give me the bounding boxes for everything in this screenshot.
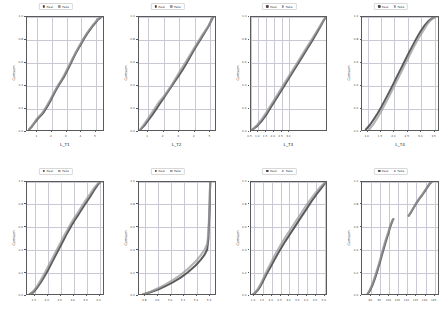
plot-area-1 [26,16,104,131]
curve-layer [251,17,327,130]
y-tick-mark [24,62,25,63]
y-tick-mark [24,16,25,17]
y-tick-mark [24,39,25,40]
y-axis-label: Cumsum [347,61,351,85]
y-tick-mark [24,131,25,132]
legend-swatch-icon [170,170,172,172]
legend-label: Fake [397,169,404,173]
y-tick-label: 0.8 [236,37,247,41]
x-tick-label: 3.0 [66,298,80,302]
x-tick-label: 3.5 [79,298,93,302]
legend-label: Fake [286,169,293,173]
x-tick-mark [273,131,274,132]
y-tick-label: 1.0 [12,14,23,18]
x-tick-mark [370,295,371,296]
x-tick-mark [163,131,164,132]
legend-item-fake[interactable]: Fake [282,169,293,173]
legend-swatch-icon [154,170,156,172]
x-tick-mark [397,295,398,296]
y-tick-label: 1.0 [124,14,135,18]
x-tick-mark [262,295,263,296]
x-tick-mark [170,295,171,296]
x-tick-mark [257,131,258,132]
y-tick-label: 0.8 [124,37,135,41]
x-tick-label: 3.5 [427,134,441,138]
y-axis-label: Cumsum [124,226,128,250]
y-tick-mark [248,203,249,204]
x-tick-label: 5 [88,134,102,138]
legend-panel-2: RealFake [150,3,184,10]
legend-swatch-icon [282,170,284,172]
legend-label: Real [382,169,389,173]
legend-item-fake[interactable]: Fake [393,5,404,9]
y-tick-mark [136,62,137,63]
legend-panel-3: RealFake [262,3,296,10]
y-tick-label: 0.0 [347,293,358,297]
legend-swatch-icon [393,170,395,172]
y-tick-mark [24,203,25,204]
x-tick-mark [209,295,210,296]
y-tick-mark [360,85,361,86]
x-tick-label: 1.5 [27,298,41,302]
legend-item-fake[interactable]: Fake [170,169,181,173]
legend-item-real[interactable]: Real [154,5,165,9]
x-tick-mark [406,295,407,296]
x-tick-mark [324,295,325,296]
legend-item-fake[interactable]: Fake [58,5,69,9]
y-tick-mark [136,203,137,204]
cdf-panel-6: RealFake0.00.20.40.60.81.04.84.95.05.15.… [112,165,224,329]
x-tick-mark [73,295,74,296]
x-tick-mark [415,295,416,296]
legend-item-real[interactable]: Real [266,5,277,9]
x-tick-label: 2.5 [400,134,414,138]
y-tick-label: 0.2 [12,271,23,275]
x-tick-label: 4.0 [92,298,106,302]
legend-label: Real [47,169,54,173]
legend-item-real[interactable]: Real [43,5,54,9]
cdf-panel-4: RealFake0.00.20.40.60.81.01.01.52.02.53.… [335,0,447,165]
legend-item-fake[interactable]: Fake [393,169,404,173]
y-tick-mark [136,108,137,109]
y-tick-mark [360,131,361,132]
x-tick-mark [157,295,158,296]
legend-item-fake[interactable]: Fake [58,169,69,173]
x-tick-label: 3.0 [413,134,427,138]
x-tick-label: 5.0 [317,298,331,302]
legend-item-real[interactable]: Real [154,169,165,173]
plot-area-7 [250,181,328,296]
legend-item-real[interactable]: Real [266,169,277,173]
legend-item-real[interactable]: Real [43,169,54,173]
x-tick-label: 5.2 [189,298,203,302]
x-tick-label: 4.9 [150,298,164,302]
x-tick-label: 2.0 [40,298,54,302]
y-tick-label: 1.0 [12,179,23,183]
x-tick-mark [380,131,381,132]
x-tick-label: 3 [59,134,73,138]
curve-layer [251,182,327,295]
x-tick-mark [367,131,368,132]
legend-item-real[interactable]: Real [378,169,389,173]
x-tick-mark [80,131,81,132]
legend-label: Real [270,5,277,9]
legend-panel-4: RealFake [374,3,408,10]
y-tick-label: 0.2 [124,271,135,275]
y-tick-mark [360,203,361,204]
legend-swatch-icon [154,5,156,7]
x-tick-label: 1 [29,134,43,138]
y-axis-label: Cumsum [236,226,240,250]
y-tick-mark [360,295,361,296]
legend-item-fake[interactable]: Fake [282,5,293,9]
y-tick-label: 0.0 [347,129,358,133]
legend-label: Real [47,5,54,9]
plot-area-4 [361,16,439,131]
legend-item-real[interactable]: Real [378,5,389,9]
x-tick-label: 1 [140,134,154,138]
legend-label: Fake [62,5,69,9]
x-tick-mark [51,131,52,132]
y-tick-label: 0.0 [12,129,23,133]
y-tick-mark [24,181,25,182]
legend-item-fake[interactable]: Fake [170,5,181,9]
series-path-fake [252,182,325,295]
x-tick-mark [36,131,37,132]
y-tick-label: 0.0 [236,293,247,297]
